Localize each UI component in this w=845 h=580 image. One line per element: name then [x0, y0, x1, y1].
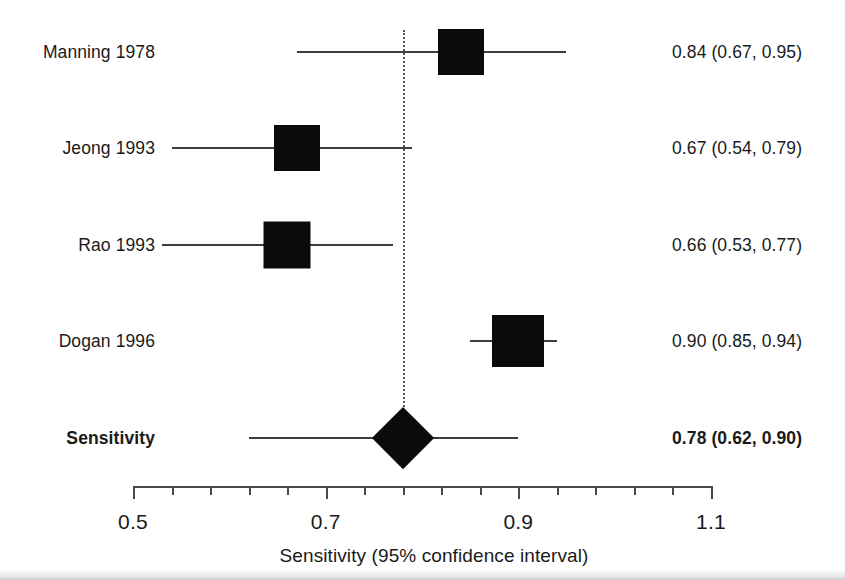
estimate-ci-text: 0.66 (0.53, 0.77) — [672, 235, 802, 256]
x-axis-tick-label: 0.7 — [311, 510, 341, 534]
x-axis-minor-tick — [210, 486, 212, 495]
scan-edge-artifact — [0, 570, 845, 580]
x-axis-minor-tick — [480, 486, 482, 495]
x-axis-minor-tick — [364, 486, 366, 495]
estimate-ci-text: 0.84 (0.67, 0.95) — [672, 42, 802, 63]
x-axis-tick-label: 1.1 — [696, 510, 726, 534]
study-label: Dogan 1996 — [59, 331, 155, 352]
x-axis-line — [133, 486, 711, 488]
x-axis-minor-tick — [287, 486, 289, 495]
x-axis-title: Sensitivity (95% confidence interval) — [280, 545, 589, 567]
x-axis-minor-tick — [249, 486, 251, 495]
estimate-ci-text: 0.67 (0.54, 0.79) — [672, 138, 802, 159]
study-box-marker — [264, 222, 311, 269]
x-axis-minor-tick — [403, 486, 405, 495]
x-axis-minor-tick — [172, 486, 174, 495]
reference-line — [403, 30, 405, 430]
x-axis-minor-tick — [441, 486, 443, 495]
x-axis-minor-tick — [634, 486, 636, 495]
study-label: Manning 1978 — [43, 42, 155, 63]
x-axis-tick-label: 0.5 — [118, 510, 148, 534]
confidence-interval-line — [297, 51, 567, 53]
x-axis-minor-tick — [595, 486, 597, 495]
x-axis-minor-tick — [557, 486, 559, 495]
x-axis-major-tick — [133, 486, 135, 499]
forest-plot: Manning 19780.84 (0.67, 0.95)Jeong 19930… — [0, 0, 845, 580]
x-axis-major-tick — [518, 486, 520, 499]
estimate-ci-text: 0.78 (0.62, 0.90) — [672, 428, 802, 449]
study-box-marker — [438, 29, 484, 75]
estimate-ci-text: 0.90 (0.85, 0.94) — [672, 331, 802, 352]
study-box-marker — [274, 125, 320, 171]
x-axis-tick-label: 0.9 — [503, 510, 533, 534]
study-label: Sensitivity — [66, 428, 155, 449]
study-label: Rao 1993 — [78, 235, 155, 256]
study-box-marker — [492, 315, 544, 367]
x-axis-major-tick — [711, 486, 713, 499]
study-label: Jeong 1993 — [63, 138, 155, 159]
summary-diamond-marker — [372, 407, 434, 469]
x-axis-minor-tick — [672, 486, 674, 495]
x-axis-major-tick — [326, 486, 328, 499]
